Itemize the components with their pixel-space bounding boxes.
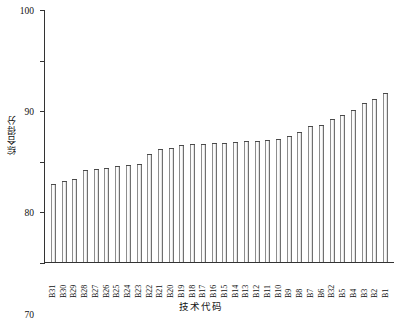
x-axis-tick-group: B1 <box>380 264 391 298</box>
bar <box>222 143 227 262</box>
bar <box>104 168 109 262</box>
bar-column <box>166 10 177 262</box>
bar-column <box>327 10 338 262</box>
bar <box>94 169 99 262</box>
bar <box>351 110 356 262</box>
bar <box>212 143 217 262</box>
bar-column <box>220 10 231 262</box>
bar-column <box>284 10 295 262</box>
y-axis-title-text: 综合得分 <box>4 115 17 155</box>
bar <box>72 179 77 262</box>
x-axis-tick-label: B11 <box>263 264 272 298</box>
bar <box>330 119 335 262</box>
x-axis-tick-label: B3 <box>360 264 369 298</box>
x-axis-tick-group: B12 <box>251 264 262 298</box>
bar <box>233 142 238 262</box>
bar <box>201 144 206 262</box>
x-axis-tick-group: B16 <box>208 264 219 298</box>
bar-column <box>337 10 348 262</box>
bar-column <box>69 10 80 262</box>
x-axis-tick-label: B25 <box>112 264 121 298</box>
bar <box>179 145 184 262</box>
bar-column <box>295 10 306 262</box>
bar-series <box>45 10 394 262</box>
bar-column <box>305 10 316 262</box>
x-axis-title: 技术代码 <box>0 299 401 313</box>
x-axis-tick-group: B6 <box>316 264 327 298</box>
x-axis-tick-group: B17 <box>198 264 209 298</box>
x-axis-tick-group: B20 <box>165 264 176 298</box>
bar <box>126 165 131 262</box>
x-axis-tick-label: B20 <box>166 264 175 298</box>
x-axis-tick-label: B31 <box>48 264 57 298</box>
bar <box>62 181 67 262</box>
x-axis-tick-group: B31 <box>47 264 58 298</box>
x-axis-tick-group: B13 <box>241 264 252 298</box>
x-axis-tick-group: B19 <box>176 264 187 298</box>
x-axis-tick-label: B29 <box>69 264 78 298</box>
bar-column <box>230 10 241 262</box>
x-axis-tick-label: B6 <box>317 264 326 298</box>
x-axis-tick-group: B7 <box>305 264 316 298</box>
plot-area: 5060708090100 <box>44 10 394 263</box>
bar <box>287 136 292 263</box>
bar-column <box>177 10 188 262</box>
x-axis-tick-group: B15 <box>219 264 230 298</box>
x-axis-tick-group: B21 <box>155 264 166 298</box>
bar <box>297 132 302 262</box>
bar <box>340 115 345 262</box>
x-axis-tick-group: B26 <box>101 264 112 298</box>
bar <box>308 126 313 262</box>
x-axis-tick-label: B22 <box>145 264 154 298</box>
x-axis-tick-label: B5 <box>338 264 347 298</box>
x-axis-tick-label: B24 <box>123 264 132 298</box>
x-axis-tick-group: B3 <box>359 264 370 298</box>
bar-column <box>209 10 220 262</box>
bar <box>83 170 88 262</box>
y-axis-tick-label: 100 <box>20 6 34 16</box>
bar-column <box>359 10 370 262</box>
x-axis-tick-group: B11 <box>262 264 273 298</box>
bar <box>158 149 163 262</box>
x-axis-tick-label: B17 <box>198 264 207 298</box>
x-axis-tick-label: B23 <box>134 264 143 298</box>
x-axis-tick-group: B27 <box>90 264 101 298</box>
x-axis-tick-group: B29 <box>69 264 80 298</box>
x-axis-tick-group: B5 <box>337 264 348 298</box>
x-axis-tick-label: B10 <box>274 264 283 298</box>
bar <box>319 125 324 262</box>
x-axis-tick-group: B23 <box>133 264 144 298</box>
bar-chart-figure: 综合得分 5060708090100 B31B30B29B28B27B26B25… <box>0 0 401 330</box>
bar <box>147 154 152 262</box>
bar-column <box>380 10 391 262</box>
bar-column <box>241 10 252 262</box>
x-axis-tick-group: B32 <box>327 264 338 298</box>
x-axis-tick-group: B2 <box>370 264 381 298</box>
x-axis-tick-label: B9 <box>284 264 293 298</box>
bar-column <box>348 10 359 262</box>
bar-column <box>112 10 123 262</box>
x-axis-tick-label: B32 <box>327 264 336 298</box>
figure-caption <box>0 320 401 330</box>
x-axis-tick-label: B30 <box>59 264 68 298</box>
x-axis-tick-label: B12 <box>252 264 261 298</box>
bar <box>137 164 142 262</box>
y-axis-title: 综合得分 <box>0 0 22 270</box>
bar-column <box>134 10 145 262</box>
x-axis-tick-label: B8 <box>295 264 304 298</box>
bar <box>169 148 174 262</box>
bar <box>115 166 120 262</box>
bar-column <box>48 10 59 262</box>
x-axis-tick-label: B28 <box>80 264 89 298</box>
x-axis-tick-group: B30 <box>58 264 69 298</box>
x-axis-tick-label: B14 <box>231 264 240 298</box>
y-axis-tick-label: 90 <box>25 107 35 117</box>
bar-column <box>123 10 134 262</box>
x-axis-tick-label: B19 <box>177 264 186 298</box>
bar-column <box>198 10 209 262</box>
x-axis-tick-group: B28 <box>79 264 90 298</box>
x-axis-tick-label: B21 <box>155 264 164 298</box>
bar-column <box>59 10 70 262</box>
x-axis-tick-group: B22 <box>144 264 155 298</box>
bar <box>265 140 270 262</box>
